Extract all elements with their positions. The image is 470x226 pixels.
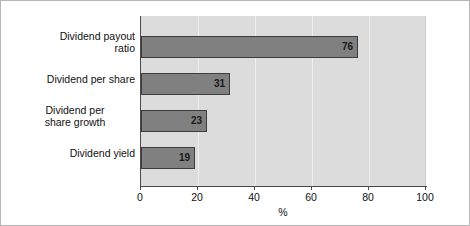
x-tick-60 xyxy=(311,186,312,190)
x-tick-40 xyxy=(254,186,255,190)
category-label-line: Dividend per share xyxy=(15,73,135,85)
category-label-dividend-per-share-growth: Dividend per share growth xyxy=(15,104,135,128)
x-tick-label-60: 60 xyxy=(296,191,326,203)
gridline-100 xyxy=(425,16,426,186)
x-tick-100 xyxy=(425,186,426,190)
bar-row: 76 xyxy=(141,36,358,58)
x-tick-label-80: 80 xyxy=(353,191,383,203)
bar-value-label: 19 xyxy=(179,153,194,163)
x-axis-title: % xyxy=(140,206,426,218)
bar-value-label: 76 xyxy=(342,42,357,52)
bar-dividend-payout-ratio[interactable]: 76 xyxy=(141,36,358,58)
bar-value-label: 23 xyxy=(191,116,206,126)
category-label-dividend-payout-ratio: Dividend payout ratio xyxy=(15,30,135,54)
category-label-line: Dividend payout xyxy=(15,30,135,42)
bar-value-label: 31 xyxy=(214,79,229,89)
category-label-line: share growth xyxy=(15,116,135,128)
x-tick-80 xyxy=(368,186,369,190)
category-label-line: Dividend yield xyxy=(15,147,135,159)
category-label-line: ratio xyxy=(15,42,135,54)
x-tick-label-20: 20 xyxy=(182,191,212,203)
chart-canvas: 76 31 23 19 Dividend payout ratio Divide… xyxy=(0,0,470,226)
bar-dividend-yield[interactable]: 19 xyxy=(141,147,195,169)
gridline-80 xyxy=(369,16,370,186)
x-tick-label-40: 40 xyxy=(239,191,269,203)
bar-row: 23 xyxy=(141,110,207,132)
x-axis-line xyxy=(140,186,427,187)
x-tick-0 xyxy=(140,186,141,190)
category-label-dividend-yield: Dividend yield xyxy=(15,147,135,159)
category-label-dividend-per-share: Dividend per share xyxy=(15,73,135,85)
x-tick-20 xyxy=(197,186,198,190)
plot-area: 76 31 23 19 xyxy=(140,16,426,186)
x-tick-label-0: 0 xyxy=(125,191,155,203)
bar-row: 31 xyxy=(141,73,230,95)
category-label-line: Dividend per xyxy=(15,104,135,116)
x-tick-label-100: 100 xyxy=(410,191,440,203)
bar-dividend-per-share[interactable]: 31 xyxy=(141,73,230,95)
bar-dividend-per-share-growth[interactable]: 23 xyxy=(141,110,207,132)
bar-row: 19 xyxy=(141,147,195,169)
